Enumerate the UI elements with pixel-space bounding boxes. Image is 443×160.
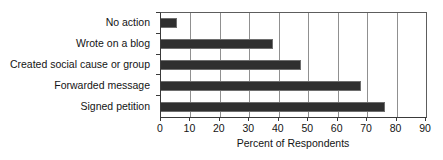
x-axis-tick-label: 70 [351, 122, 381, 135]
y-axis-tick [156, 95, 160, 96]
x-axis-tick [248, 117, 249, 121]
x-axis-tick-label: 20 [204, 122, 234, 135]
category-label: No action [106, 16, 150, 28]
x-axis-title: Percent of Respondents [160, 137, 426, 150]
x-axis-tick-label: 0 [145, 122, 175, 135]
x-axis-tick-label: 50 [292, 122, 322, 135]
bar-series [161, 13, 426, 117]
bar [161, 81, 361, 91]
x-axis-tick-label: 30 [233, 122, 263, 135]
x-axis-tick-label: 60 [322, 122, 352, 135]
category-label: Forwarded message [54, 79, 150, 91]
bar [161, 60, 301, 70]
x-axis-tick [219, 117, 220, 121]
x-axis-tick [189, 117, 190, 121]
y-axis-tick [156, 54, 160, 55]
x-axis-tick-label: 80 [381, 122, 411, 135]
x-axis-tick-labels: 0102030405060708090 [0, 122, 443, 136]
x-axis-tick-label: 40 [263, 122, 293, 135]
x-axis-tick-label: 90 [410, 122, 440, 135]
x-axis-tick [337, 117, 338, 121]
x-axis-tick [278, 117, 279, 121]
bar-chart-figure: No actionWrote on a blogCreated social c… [0, 0, 443, 160]
x-axis-tick [425, 117, 426, 121]
x-axis-tick [307, 117, 308, 121]
bar [161, 102, 385, 112]
y-axis-tick [156, 12, 160, 13]
x-axis-tick [160, 117, 161, 121]
y-axis-tick [156, 33, 160, 34]
x-axis-tick [396, 117, 397, 121]
bar [161, 39, 273, 49]
plot-area [160, 12, 427, 118]
category-axis-labels: No actionWrote on a blogCreated social c… [0, 12, 155, 116]
y-axis-tick [156, 74, 160, 75]
bar [161, 18, 177, 28]
x-axis-tick-label: 10 [174, 122, 204, 135]
category-label: Wrote on a blog [76, 37, 150, 49]
category-label: Created social cause or group [10, 58, 150, 70]
x-axis-tick [366, 117, 367, 121]
category-label: Signed petition [81, 100, 150, 112]
